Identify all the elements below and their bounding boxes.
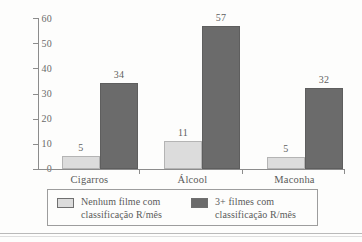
bar-value-maconha-3mais-filmes: 32: [319, 75, 330, 85]
chart-legend: Nenhum filme com classificação R/mês 3+ …: [47, 189, 318, 226]
bar-maconha-3mais-filmes[interactable]: 32: [305, 88, 343, 169]
x-axis-line: [38, 169, 345, 170]
bar-alcool-nenhum-filme[interactable]: 11: [164, 141, 202, 169]
bar-group-maconha: 5 32: [267, 18, 343, 169]
legend-item-3mais-filmes[interactable]: 3+ filmes com classificação R/mês: [191, 196, 296, 221]
chart-figure: 60 50 40 30 20 10 0 5 34: [0, 0, 362, 242]
bar-alcool-3mais-filmes[interactable]: 57: [202, 26, 240, 169]
legend-label-nenhum-filme-line1: Nenhum filme com: [81, 196, 160, 207]
bar-value-cigarros-3mais-filmes: 34: [114, 70, 125, 80]
y-tick-40: [33, 68, 38, 69]
legend-item-nenhum-filme[interactable]: Nenhum filme com classificação R/mês: [57, 196, 162, 221]
legend-label-nenhum-filme: Nenhum filme com classificação R/mês: [81, 196, 162, 221]
plot-area: 5 34 11 57 5 32: [38, 18, 345, 170]
page-divider-rule-shadow: [0, 236, 362, 237]
page-divider-rule: [0, 233, 362, 234]
bar-cigarros-nenhum-filme[interactable]: 5: [62, 156, 100, 169]
x-axis-category-alcool: Álcool: [141, 174, 244, 186]
bar-value-alcool-nenhum-filme: 11: [178, 128, 188, 138]
y-tick-50: [33, 43, 38, 44]
bar-value-alcool-3mais-filmes: 57: [216, 13, 227, 23]
legend-label-3mais-filmes-line2: classificação R/mês: [215, 209, 296, 220]
legend-swatch-light-icon: [57, 198, 74, 208]
bar-value-maconha-nenhum-filme: 5: [283, 144, 288, 154]
x-axis-category-cigarros: Cigarros: [38, 174, 141, 186]
bar-value-cigarros-nenhum-filme: 5: [78, 143, 83, 153]
y-tick-60: [33, 18, 38, 19]
bar-group-alcool: 11 57: [164, 18, 240, 169]
legend-label-3mais-filmes: 3+ filmes com classificação R/mês: [215, 196, 296, 221]
y-tick-30: [33, 94, 38, 95]
bar-group-cigarros: 5 34: [62, 18, 138, 169]
legend-label-nenhum-filme-line2: classificação R/mês: [81, 209, 162, 220]
y-tick-0: [33, 169, 38, 170]
bar-cigarros-3mais-filmes[interactable]: 34: [100, 83, 138, 169]
legend-swatch-dark-icon: [191, 198, 208, 208]
bar-maconha-nenhum-filme[interactable]: 5: [267, 157, 305, 169]
legend-label-3mais-filmes-line1: 3+ filmes com: [215, 196, 274, 207]
y-axis-line: [38, 18, 39, 170]
y-tick-10: [33, 144, 38, 145]
y-tick-20: [33, 119, 38, 120]
x-axis-category-maconha: Maconha: [243, 174, 346, 186]
